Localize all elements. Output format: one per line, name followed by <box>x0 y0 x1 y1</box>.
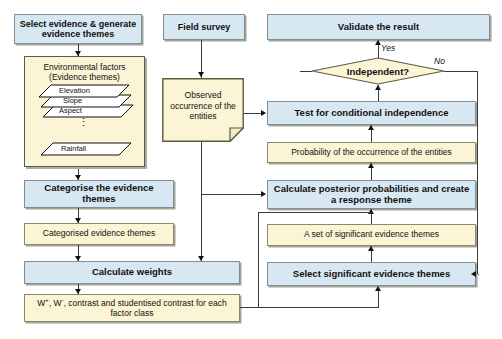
arrowhead-envfactors-in <box>75 51 81 56</box>
node-select-significant-themes-label: Select significant evidence themes <box>293 269 450 280</box>
arrowhead-probability-in-bottom <box>368 163 374 168</box>
node-probability-occurrence-label: Probability of the occurrence of the ent… <box>291 148 452 158</box>
flowchart-canvas: Select evidence & generate evidence them… <box>0 0 502 339</box>
node-weights-output[interactable]: W+, W-, contrast and studentised contras… <box>24 294 240 322</box>
node-field-survey[interactable]: Field survey <box>163 14 245 40</box>
arrowhead-test-in-bottom <box>368 125 374 130</box>
arrowhead-calcweights-in <box>75 256 81 261</box>
node-probability-occurrence[interactable]: Probability of the occurrence of the ent… <box>267 142 476 163</box>
arrowhead-diamond-in-bottom <box>375 85 381 90</box>
arrowhead-posterior-in-left <box>261 191 266 197</box>
layer-ellipsis-icon: ⋮ <box>71 119 95 125</box>
group-environmental-factors[interactable]: Environmental factors (Evidence themes) … <box>24 56 145 167</box>
connector-trunk-to-posterior <box>201 194 265 195</box>
node-calculate-posterior-label: Calculate posterior probabilities and cr… <box>272 184 471 206</box>
connector-diamond-left-stub <box>300 71 312 72</box>
connector-no-down <box>477 71 478 274</box>
connector-observed-down-trunk <box>201 142 202 261</box>
node-categorised-themes-label: Categorised evidence themes <box>43 229 155 239</box>
connector-posterior-loop-left <box>258 212 259 308</box>
node-categorise-themes[interactable]: Categorise the evidence themes <box>24 180 174 208</box>
node-calculate-posterior[interactable]: Calculate posterior probabilities and cr… <box>267 180 476 209</box>
node-independent-decision-label: Independent? <box>311 57 445 85</box>
node-select-evidence-label: Select evidence & generate evidence them… <box>18 19 138 40</box>
connector-posterior-loop-top <box>258 212 372 213</box>
weights-output-w2: W <box>54 298 62 308</box>
node-field-survey-label: Field survey <box>178 22 231 32</box>
node-test-conditional-independence-label: Test for conditional independence <box>295 108 449 119</box>
edge-label-no: No <box>434 56 445 66</box>
arrowhead-observed-in <box>198 72 204 77</box>
node-select-significant-themes[interactable]: Select significant evidence themes <box>267 262 476 286</box>
node-calculate-weights[interactable]: Calculate weights <box>24 261 240 284</box>
weights-output-rest: , contrast and studentised contrast for … <box>64 298 227 318</box>
arrowhead-calcweights-in-right <box>198 256 204 261</box>
connector-rail-up-to-select <box>378 288 379 308</box>
node-observed-occurrence-label: Observed occurrence of the entities <box>162 78 244 142</box>
layer-label-aspect: Aspect <box>59 106 82 115</box>
node-select-evidence[interactable]: Select evidence & generate evidence them… <box>14 14 142 44</box>
layer-label-rainfall: Rainfall <box>61 144 86 153</box>
edge-label-yes: Yes <box>381 43 395 53</box>
arrowhead-setthemes-in-bottom <box>368 246 374 251</box>
node-set-significant-themes-label: A set of significant evidence themes <box>304 230 439 240</box>
node-weights-output-label: W+, W-, contrast and studentised contras… <box>29 297 235 318</box>
connector-no-into-select <box>478 274 479 275</box>
arrowhead-validate-in-bottom <box>375 40 381 45</box>
arrowhead-categorise-in <box>75 175 81 180</box>
layer-label-elevation: Elevation <box>59 86 90 95</box>
connector-weightsoutput-to-rail <box>240 307 378 308</box>
arrowhead-categorised-in <box>75 218 81 223</box>
connector-no-right <box>444 71 478 72</box>
node-validate-result-label: Validate the result <box>338 22 419 33</box>
arrowhead-test-in-left <box>261 110 266 116</box>
node-independent-decision[interactable]: Independent? <box>311 57 445 85</box>
node-categorise-themes-label: Categorise the evidence themes <box>28 183 170 205</box>
arrowhead-weightsoutput-in <box>75 289 81 294</box>
layer-label-slope: Slope <box>63 96 82 105</box>
node-calculate-weights-label: Calculate weights <box>92 267 172 278</box>
node-categorised-themes[interactable]: Categorised evidence themes <box>24 223 174 245</box>
node-set-significant-themes[interactable]: A set of significant evidence themes <box>267 224 476 246</box>
node-observed-occurrence[interactable]: Observed occurrence of the entities <box>162 78 244 142</box>
arrowhead-select-in-bottom <box>375 286 381 291</box>
arrowhead-select-in-right <box>471 271 476 277</box>
node-validate-result[interactable]: Validate the result <box>267 14 490 40</box>
node-test-conditional-independence[interactable]: Test for conditional independence <box>267 101 476 125</box>
